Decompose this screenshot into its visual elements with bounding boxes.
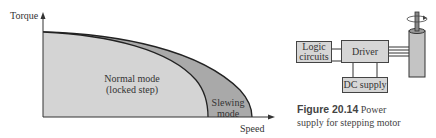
- logic-circuits-block: Logic circuits: [296, 41, 332, 63]
- figure-caption: Figure 20.14 Power supply for stepping m…: [297, 103, 401, 129]
- dc-supply-block: DC supply: [342, 77, 388, 93]
- slewing-mode-label: Slewing mode: [205, 97, 251, 119]
- x-axis-label: Speed: [240, 123, 264, 134]
- figure-number: Figure 20.14: [297, 103, 358, 115]
- x-axis-arrow-icon: [268, 115, 275, 120]
- y-axis-label: Torque: [10, 10, 38, 21]
- rotation-arrow-icon: [407, 16, 427, 22]
- normal-mode-label: Normal mode (locked step): [82, 73, 182, 95]
- y-axis-arrow-icon: [41, 12, 46, 19]
- driver-block: Driver: [341, 40, 389, 63]
